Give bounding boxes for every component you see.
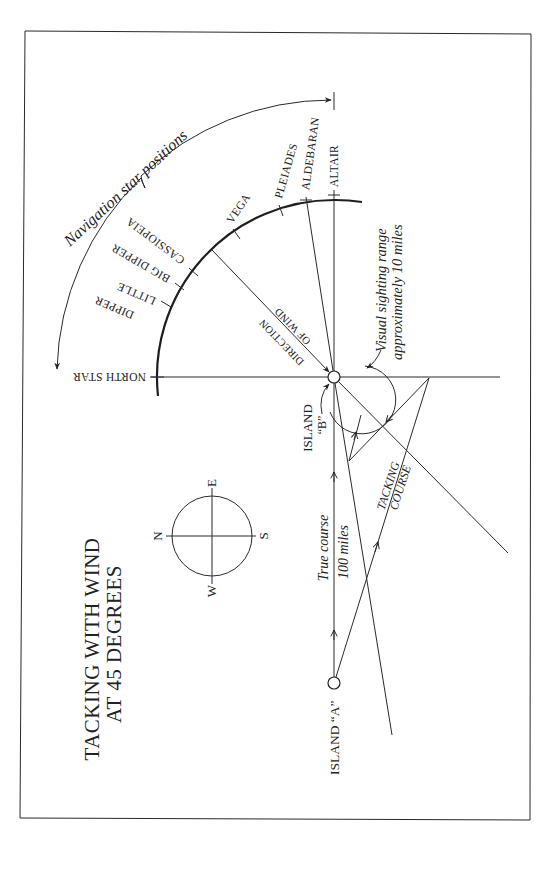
compass-n: N: [150, 531, 165, 541]
compass-w: W: [204, 584, 219, 597]
island-a-marker: [328, 677, 340, 689]
star-north-star: NORTH STAR: [73, 371, 146, 383]
star-altair: ALTAIR: [328, 145, 340, 187]
island-b-quote: “B”: [315, 416, 329, 435]
navigation-star-label: Navigation star positions: [60, 126, 191, 250]
title-line-1: TACKING WITH WIND: [80, 537, 104, 760]
wind-direction-line: [212, 250, 329, 372]
tacking-diagram: TACKING WITH WIND AT 45 DEGREES N E S W …: [0, 0, 559, 871]
island-a-label: ISLAND “A”: [327, 700, 342, 775]
island-b-pointer: [321, 384, 329, 414]
island-b-label: ISLAND: [300, 404, 315, 452]
star-arc: [157, 200, 362, 396]
title: TACKING WITH WIND AT 45 DEGREES: [80, 537, 126, 760]
compass-e: E: [204, 479, 219, 487]
sighting-label-2: approximately 10 miles: [389, 224, 405, 360]
star-pleiades: PLEIADES: [272, 142, 299, 200]
star-vega: VEGA: [224, 191, 253, 226]
true-course-label-2: 100 miles: [336, 524, 351, 579]
wind-label-1: DIRECTION: [257, 317, 306, 367]
compass-rose: N E S W: [150, 479, 271, 597]
compass-s: S: [256, 532, 271, 539]
tacking-leg-2: [349, 378, 429, 461]
true-course-label-1: True course: [316, 515, 331, 582]
tacking-arrow-1: [375, 542, 378, 552]
star-little-dipper: LITTLE: [115, 281, 157, 308]
tacking-arrow-2: [386, 414, 393, 422]
star-ticks: [150, 195, 340, 377]
aldebaran-line: [306, 197, 334, 377]
island-b-marker: [328, 371, 340, 383]
star-aldebaran: ALDEBARAN: [299, 116, 321, 191]
title-line-2: AT 45 DEGREES: [102, 565, 126, 723]
sighting-label-1: Visual sighting range: [373, 228, 389, 352]
